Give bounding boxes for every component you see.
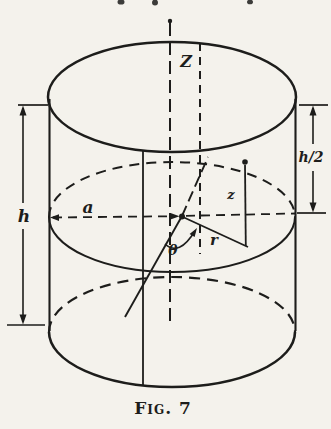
figure-7-cylinder-diagram: Z h h/2 a z r θ Fig. 7 (0, 0, 331, 429)
cropped-text-remnants (118, 0, 254, 5)
radius-label-a: a (82, 199, 93, 216)
coord-label-z: z (227, 188, 234, 201)
axis-label-Z: Z (180, 54, 192, 70)
h-down-arrowhead (20, 315, 27, 325)
radius-a-left-arrowhead (50, 214, 59, 221)
z-axis-top-dot (168, 19, 172, 23)
theta-arc-arrowhead (190, 228, 197, 237)
radius-a-right-arrowhead (171, 213, 180, 220)
z-coordinate-line (245, 165, 246, 246)
h2-up-arrowhead (310, 106, 317, 116)
coord-label-theta: θ (168, 243, 177, 257)
h2-down-arrowhead (310, 203, 317, 213)
height-label-h: h (18, 208, 30, 225)
top-ellipse (48, 42, 296, 152)
point-dot (242, 159, 248, 165)
h-up-arrowhead (20, 106, 27, 116)
reference-axis-dashed (182, 157, 208, 216)
cylinder-line-art (0, 0, 331, 429)
radius-a-dashed-line (53, 216, 176, 217)
figure-caption: Fig. 7 (134, 398, 192, 418)
mid-diameter-dashed-line (186, 214, 295, 216)
bottom-ellipse-front-arc (49, 332, 295, 387)
coord-label-r: r (210, 233, 218, 248)
reference-axis-solid (125, 216, 182, 317)
half-height-label: h/2 (298, 150, 323, 164)
origin-dot (179, 214, 185, 220)
bottom-ellipse-back-arc (49, 277, 295, 332)
